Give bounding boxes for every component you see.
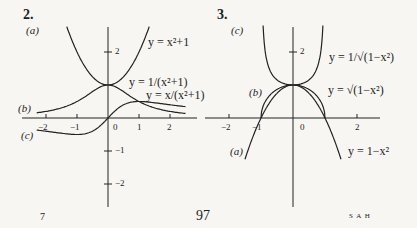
chart3-part-c-label: (c): [231, 25, 243, 36]
page-number: 97: [196, 209, 210, 223]
chart2-xtick-m2: −2: [38, 123, 48, 132]
chart2-ytick-m2: −2: [115, 179, 125, 188]
chart3-ytick-2: 2: [300, 47, 305, 56]
chart3-eq-c: y = 1/√(1−x²): [329, 51, 394, 63]
chart2-title: 2.: [23, 8, 34, 22]
chart3-eq-a: y = 1−x²: [348, 145, 389, 157]
chart2-ytick-2: 2: [115, 47, 120, 56]
chart2-eq-c: y = x/(x²+1): [146, 89, 204, 101]
chart3-part-b-label: (b): [249, 87, 262, 98]
chart2-xtick-m1: −1: [70, 123, 80, 132]
chart2-part-a-label: (a): [26, 25, 39, 36]
plots-canvas: [0, 0, 417, 228]
chart3-eq-b: y = √(1−x²): [328, 84, 384, 96]
chart3-title: 3.: [217, 8, 228, 22]
chart3-xtick-0: 0: [300, 123, 305, 132]
chart2-part-c-label: (c): [21, 130, 33, 141]
chart3-part-a-label: (a): [230, 146, 243, 157]
chart2-xtick-1: 1: [137, 123, 142, 132]
chart3-xtick-m1: −1: [252, 123, 262, 132]
chart2-eq-a: y = x²+1: [148, 36, 189, 48]
chart3-xtick-2: 2: [355, 123, 360, 132]
chart2-xtick-2: 2: [167, 123, 172, 132]
chart2-ytick-m1: −1: [115, 146, 125, 155]
footer-right: S A H: [349, 213, 371, 220]
chart2-xtick-0: 0: [113, 123, 118, 132]
chart2-part-b-label: (b): [18, 103, 31, 114]
footer-left: 7: [40, 212, 45, 222]
chart3-xtick-m2: −2: [221, 123, 231, 132]
chart2-eq-b: y = 1/(x²+1): [129, 76, 187, 88]
